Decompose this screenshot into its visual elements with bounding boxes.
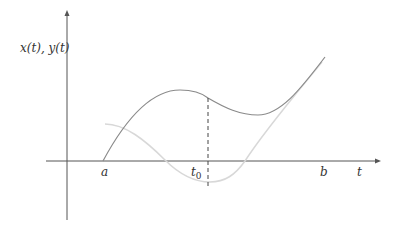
y-axis-arrow-icon [65,10,70,16]
curve-y-of-t [105,62,322,182]
curve-x-of-t [103,57,325,161]
label-t0: t0 [191,165,202,181]
y-axis-label: x(t), y(t) [20,41,70,55]
x-axis-label: t [357,165,362,179]
label-b: b [320,165,328,179]
label-t0-subscript: 0 [196,171,202,181]
diagram-figure: x(t), y(t) t a b t0 [0,0,399,229]
label-a: a [101,165,108,179]
x-axis-arrow-icon [375,159,381,164]
